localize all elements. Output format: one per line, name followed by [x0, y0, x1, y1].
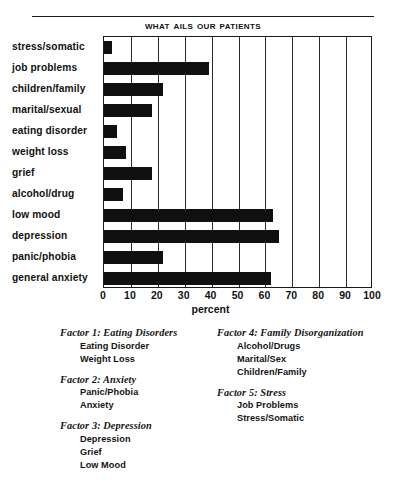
factor-item: Panic/Phobia: [60, 386, 210, 399]
category-label: stress/somatic: [0, 41, 96, 52]
bar-row: [104, 184, 371, 205]
bar: [104, 230, 279, 243]
bar-row: [104, 247, 371, 268]
bar: [104, 62, 209, 75]
bar: [104, 104, 152, 117]
bar: [104, 167, 152, 180]
factor-title: Factor 3: Depression: [60, 419, 210, 433]
x-tick-30: 30: [178, 289, 190, 301]
category-label: depression: [0, 230, 96, 241]
factor-item: Weight Loss: [60, 353, 210, 366]
bar-row: [104, 100, 371, 121]
factor-block: Factor 1: Eating DisordersEating Disorde…: [60, 326, 210, 366]
category-label: general anxiety: [0, 272, 96, 283]
factor-item: Grief: [60, 446, 210, 459]
x-tick-50: 50: [232, 289, 244, 301]
x-axis-tick-labels: 0102030405060708090100: [103, 289, 372, 303]
figure-what-ails-our-patients: What Ails Our Patients stress/somaticjob…: [0, 0, 406, 483]
x-tick-0: 0: [100, 289, 106, 301]
bar: [104, 188, 123, 201]
bar-row: [104, 163, 371, 184]
factor-item: Eating Disorder: [60, 340, 210, 353]
factor-item: Depression: [60, 433, 210, 446]
factor-block: Factor 4: Family DisorganizationAlcohol/…: [217, 326, 392, 379]
category-label: children/family: [0, 83, 96, 94]
x-tick-100: 100: [363, 289, 381, 301]
bar-row: [104, 121, 371, 142]
factor-title: Factor 2: Anxiety: [60, 373, 210, 387]
plot-area: [103, 36, 372, 288]
factor-block: Factor 3: DepressionDepressionGriefLow M…: [60, 419, 210, 472]
title-rule: What Ails Our Patients: [32, 16, 374, 33]
factor-title: Factor 4: Family Disorganization: [217, 326, 392, 340]
category-label: grief: [0, 167, 96, 178]
category-label: eating disorder: [0, 125, 96, 136]
factor-item: Alcohol/Drugs: [217, 340, 392, 353]
factor-legend-right-column: Factor 4: Family DisorganizationAlcohol/…: [217, 326, 392, 432]
factor-item: Anxiety: [60, 399, 210, 412]
x-tick-20: 20: [151, 289, 163, 301]
x-tick-80: 80: [312, 289, 324, 301]
bar: [104, 251, 163, 264]
factor-legend: Factor 1: Eating DisordersEating Disorde…: [0, 326, 406, 483]
factor-block: Factor 2: AnxietyPanic/PhobiaAnxiety: [60, 373, 210, 413]
bar: [104, 41, 112, 54]
factor-title: Factor 5: Stress: [217, 386, 392, 400]
factor-item: Job Problems: [217, 399, 392, 412]
factor-item: Low Mood: [60, 459, 210, 472]
bar-row: [104, 58, 371, 79]
factor-item: Children/Family: [217, 366, 392, 379]
category-label: panic/phobia: [0, 251, 96, 262]
bar: [104, 272, 271, 285]
x-tick-60: 60: [259, 289, 271, 301]
bar: [104, 125, 117, 138]
category-label: low mood: [0, 209, 96, 220]
category-label: alcohol/drug: [0, 188, 96, 199]
x-axis-title: percent: [103, 303, 318, 315]
factor-legend-left-column: Factor 1: Eating DisordersEating Disorde…: [60, 326, 210, 479]
bar-row: [104, 205, 371, 226]
bar: [104, 209, 273, 222]
factor-title: Factor 1: Eating Disorders: [60, 326, 210, 340]
bar-row: [104, 226, 371, 247]
x-tick-10: 10: [124, 289, 136, 301]
x-tick-70: 70: [285, 289, 297, 301]
bar-row: [104, 37, 371, 58]
bar-row: [104, 142, 371, 163]
factor-item: Marital/Sex: [217, 353, 392, 366]
bar-row: [104, 268, 371, 289]
x-tick-40: 40: [205, 289, 217, 301]
category-axis-labels: stress/somaticjob problemschildren/famil…: [0, 36, 100, 288]
category-label: weight loss: [0, 146, 96, 157]
bar: [104, 146, 126, 159]
bar-row: [104, 79, 371, 100]
category-label: job problems: [0, 62, 96, 73]
chart-title: What Ails Our Patients: [32, 19, 374, 31]
factor-block: Factor 5: StressJob ProblemsStress/Somat…: [217, 386, 392, 426]
bar: [104, 83, 163, 96]
bar-series: [104, 37, 371, 287]
x-tick-90: 90: [339, 289, 351, 301]
category-label: marital/sexual: [0, 104, 96, 115]
factor-item: Stress/Somatic: [217, 412, 392, 425]
